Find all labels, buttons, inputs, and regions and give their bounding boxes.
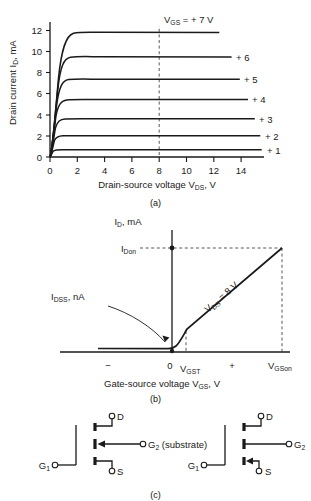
right-g1-label: G1 xyxy=(188,460,199,472)
panel-a-curve-vgs3 xyxy=(50,119,255,157)
panel-a-curve-vgs5 xyxy=(50,79,240,157)
svg-text:4: 4 xyxy=(37,110,42,121)
right-g2-terminal xyxy=(286,441,292,447)
panel-a-label-plus6: + 6 xyxy=(236,52,249,63)
panel-a-label-plus3: + 3 xyxy=(259,114,272,125)
right-source-label: S xyxy=(265,466,271,477)
panel-b-idss-arrow xyxy=(108,306,165,342)
right-drain-label: D xyxy=(266,411,273,422)
svg-text:10: 10 xyxy=(181,165,192,176)
panel-b-transfer-curve xyxy=(98,248,282,349)
right-drain-terminal xyxy=(258,413,264,419)
right-drain-lead xyxy=(244,419,261,426)
svg-text:8: 8 xyxy=(37,67,42,78)
right-g2-label: G2 xyxy=(294,439,305,451)
panel-a-chart: Drain current ID, mA 0 2 4 6 8 10 12 0 2… xyxy=(0,0,311,192)
left-drain-lead xyxy=(95,419,112,426)
left-source-label: S xyxy=(117,466,123,477)
svg-text:6: 6 xyxy=(129,165,134,176)
panel-a-y-ticks: 0 2 4 6 8 10 12 xyxy=(31,25,50,163)
left-g1-label: G1 xyxy=(39,460,50,472)
panel-b-y-axis-label: ID, mA xyxy=(114,216,142,228)
left-substrate-arrow-icon xyxy=(98,441,106,448)
svg-text:2: 2 xyxy=(75,165,80,176)
panel-b-idss-label: IDSS, nA xyxy=(51,291,85,303)
panel-b-plus-sign: + xyxy=(229,360,235,371)
panel-b-minus-sign: − xyxy=(105,360,111,371)
figure-root: Drain current ID, mA 0 2 4 6 8 10 12 0 2… xyxy=(0,0,311,501)
svg-text:6: 6 xyxy=(37,88,42,99)
right-source-terminal xyxy=(256,468,262,474)
svg-text:12: 12 xyxy=(209,165,220,176)
panel-b-idon-dot xyxy=(170,246,175,251)
left-source-lead xyxy=(95,461,112,468)
left-source-terminal xyxy=(109,468,115,474)
panel-a-x-axis-label: Drain-source voltage VDS, V xyxy=(98,179,216,191)
panel-a-label-plus1: + 1 xyxy=(267,145,280,156)
svg-text:2: 2 xyxy=(37,131,42,142)
panel-c-caption: (c) xyxy=(0,484,311,501)
svg-text:0: 0 xyxy=(37,152,42,163)
svg-text:Drain current ID, mA: Drain current ID, mA xyxy=(7,40,19,125)
svg-text:0: 0 xyxy=(47,165,52,176)
panel-b-idss-arrowhead xyxy=(162,336,169,342)
panel-b-origin-label: 0 xyxy=(167,360,172,371)
svg-text:8: 8 xyxy=(157,165,162,176)
panel-a-vgs-annotation: VGS = + 7 V xyxy=(164,14,214,26)
left-drain-terminal xyxy=(109,413,115,419)
panel-a-curve-vgs7 xyxy=(50,32,219,157)
left-g2-label: G2 (substrate) xyxy=(148,439,207,451)
svg-text:10: 10 xyxy=(31,46,42,57)
panel-a-x-ticks: 0 2 4 6 8 10 12 14 xyxy=(47,157,246,176)
panel-b-origin-dot xyxy=(170,349,174,353)
panel-a-label-plus5: + 5 xyxy=(244,74,257,85)
panel-b-chart: ID, mA IDon VDS = 8 V IDSS, nA − 0 + VGS… xyxy=(0,205,311,390)
panel-a-curve-vgs2 xyxy=(50,136,260,157)
panel-a-curve-vgs1 xyxy=(50,150,262,157)
svg-text:4: 4 xyxy=(102,165,107,176)
panel-b-idon-label: IDon xyxy=(121,243,136,255)
panel-b-vgst-label: VGST xyxy=(180,363,200,375)
panel-b-vds-label: VDS = 8 V xyxy=(202,279,241,315)
left-drain-label: D xyxy=(117,411,124,422)
panel-a-curve-vgs6 xyxy=(50,57,232,157)
panel-c-left-symbol: G1 D S G2 (substrate) xyxy=(39,411,207,477)
panel-b-vgson-label: VGSon xyxy=(268,360,292,372)
svg-text:12: 12 xyxy=(31,25,42,36)
panel-a-label-plus4: + 4 xyxy=(252,94,265,105)
left-g1-terminal xyxy=(52,462,58,468)
panel-a-label-plus2: + 2 xyxy=(265,131,278,142)
svg-text:14: 14 xyxy=(236,165,247,176)
left-g2-terminal xyxy=(140,441,146,447)
right-g1-terminal xyxy=(201,462,207,468)
panel-c-symbols: G1 D S G2 (substrate) G1 xyxy=(0,405,311,495)
right-source-arrow-icon xyxy=(246,458,253,465)
panel-b-caption: (b) xyxy=(0,388,311,406)
panel-a-y-axis-label: Drain current ID, mA xyxy=(7,40,19,125)
panel-a-curve-vgs4 xyxy=(50,100,248,157)
